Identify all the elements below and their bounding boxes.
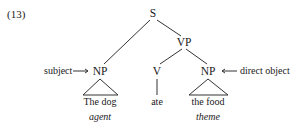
object-role: theme bbox=[196, 112, 220, 122]
node-s: S bbox=[150, 8, 156, 20]
node-np-subject: NP bbox=[93, 66, 108, 78]
triangle-subject bbox=[83, 79, 118, 95]
object-text: the food bbox=[191, 97, 224, 107]
object-annotation: direct object bbox=[240, 66, 290, 76]
node-np-object: NP bbox=[201, 66, 216, 78]
verb-text: ate bbox=[151, 97, 163, 107]
branch-vp-v bbox=[160, 49, 182, 64]
node-v: V bbox=[153, 66, 161, 78]
node-vp: VP bbox=[177, 37, 192, 49]
example-number: (13) bbox=[7, 9, 25, 20]
branch-s-np bbox=[104, 20, 150, 64]
branch-s-vp bbox=[157, 20, 181, 36]
subject-role: agent bbox=[89, 112, 111, 122]
subject-annotation: subject bbox=[44, 66, 72, 76]
subject-text: The dog bbox=[83, 97, 116, 107]
triangle-object bbox=[189, 79, 228, 95]
branch-vp-np bbox=[186, 49, 207, 64]
